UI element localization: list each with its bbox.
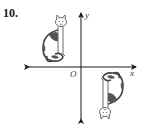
origin-label: O [70,69,77,79]
cat-rotated-figure [100,73,124,119]
x-axis-label: x [129,68,134,78]
y-axis-label: y [84,10,89,20]
coordinate-diagram: O x y [0,0,143,133]
cat-original-figure [43,15,67,61]
